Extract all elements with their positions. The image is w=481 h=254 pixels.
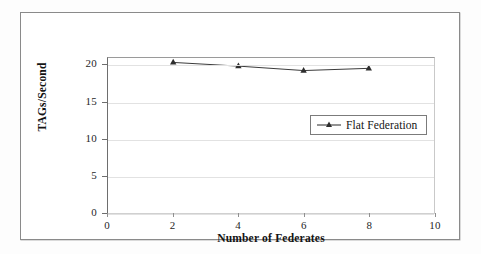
legend-line-marker-icon: [316, 120, 342, 130]
plot-area: Flat Federation: [107, 57, 435, 213]
x-tick-label: 8: [349, 219, 389, 231]
x-tick-mark: [173, 213, 174, 217]
y-gridline: [108, 65, 434, 66]
y-axis-title: TAGs/Second: [36, 51, 48, 143]
x-tick-mark: [369, 213, 370, 217]
y-tick-label: 5: [63, 169, 97, 181]
x-axis-title: Number of Federates: [107, 232, 435, 244]
y-tick-label: 0: [63, 206, 97, 218]
x-tick-mark: [238, 213, 239, 217]
x-axis-line: [107, 213, 435, 214]
data-series-layer: [108, 58, 434, 213]
x-tick-label: 10: [415, 219, 455, 231]
y-tick-mark: [102, 139, 107, 140]
data-point-marker: [300, 67, 306, 73]
y-gridline: [108, 140, 434, 141]
x-tick-mark: [107, 213, 108, 217]
y-tick-label: 10: [63, 132, 97, 144]
figure-canvas: TAGs/Second Flat Federation Number of Fe…: [0, 0, 481, 254]
chart-legend: Flat Federation: [310, 115, 427, 135]
figure-border: TAGs/Second Flat Federation Number of Fe…: [20, 12, 460, 240]
x-tick-label: 2: [153, 219, 193, 231]
series-line-flat-federation: [173, 62, 369, 70]
y-gridline: [108, 177, 434, 178]
y-tick-mark: [102, 176, 107, 177]
x-tick-mark: [304, 213, 305, 217]
y-tick-mark: [102, 64, 107, 65]
data-point-marker: [170, 59, 176, 65]
y-tick-label: 15: [63, 95, 97, 107]
x-tick-label: 0: [87, 219, 127, 231]
x-tick-label: 4: [218, 219, 258, 231]
y-tick-label: 20: [63, 57, 97, 69]
y-gridline: [108, 103, 434, 104]
x-tick-label: 6: [284, 219, 324, 231]
y-tick-mark: [102, 102, 107, 103]
legend-label-flat-federation: Flat Federation: [346, 119, 417, 131]
x-tick-mark: [435, 213, 436, 217]
